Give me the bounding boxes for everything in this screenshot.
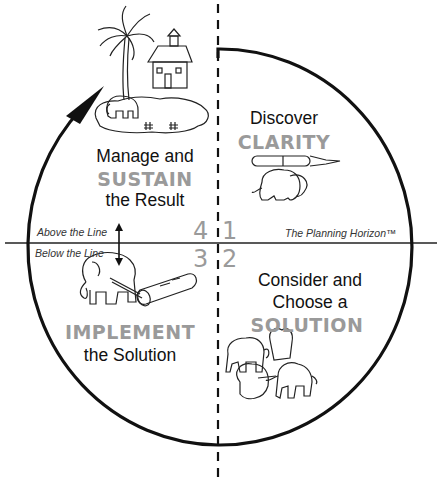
q3-line2: the Solution bbox=[60, 345, 200, 366]
quadrant-number-1: 1 bbox=[222, 219, 237, 243]
q4-emphasis: SUSTAIN bbox=[70, 168, 220, 190]
q2-emphasis: SOLUTION bbox=[232, 314, 382, 336]
quadrant-number-4: 4 bbox=[193, 219, 208, 243]
island-house-palm-illustration bbox=[95, 6, 208, 133]
q1-line1: Discover bbox=[224, 108, 344, 129]
planning-horizon-label: The Planning Horizon™ bbox=[285, 227, 396, 239]
cycle-arrowhead-icon bbox=[66, 86, 104, 124]
q1-emphasis: CLARITY bbox=[224, 131, 344, 153]
q4-line1: Manage and bbox=[70, 146, 220, 167]
elephants-meeting-illustration bbox=[226, 328, 317, 398]
planning-cycle-diagram bbox=[0, 0, 440, 486]
q2-line1: Consider and bbox=[240, 270, 380, 291]
above-the-line-label: Above the Line bbox=[37, 226, 107, 238]
below-the-line-label: Below the Line bbox=[35, 247, 104, 259]
q2-line2: Choose a bbox=[240, 292, 380, 313]
quadrant-number-3: 3 bbox=[193, 247, 208, 271]
elephant-with-pen-illustration bbox=[252, 156, 340, 200]
elephant-pulling-log-illustration bbox=[80, 253, 196, 308]
quadrant-number-2: 2 bbox=[222, 247, 237, 271]
above-below-arrow-icon bbox=[115, 223, 123, 266]
q4-line2: the Result bbox=[70, 190, 220, 211]
q3-emphasis: IMPLEMENT bbox=[50, 321, 210, 343]
